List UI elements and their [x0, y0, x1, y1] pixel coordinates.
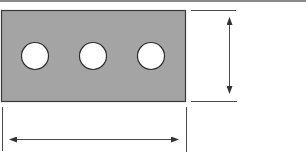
- plate-diagram: [0, 0, 306, 156]
- holes: [22, 43, 165, 70]
- hole-1: [22, 43, 49, 70]
- hole-3: [138, 43, 165, 70]
- hole-2: [80, 43, 107, 70]
